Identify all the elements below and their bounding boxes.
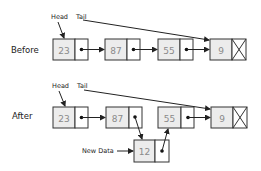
tail-label: Tail (76, 82, 88, 90)
list-node: 9 (210, 39, 246, 60)
head-pointer-arrow (58, 22, 64, 38)
tail-label: Tail (75, 13, 87, 21)
list-node: 9 (211, 107, 247, 128)
node-value: 23 (58, 114, 69, 124)
head-label: Head (51, 13, 68, 21)
before-section: Before Head Tail 23 87 55 (11, 13, 246, 60)
node-value: 55 (163, 46, 174, 56)
tail-pointer-arrow (84, 90, 210, 109)
before-label: Before (11, 45, 39, 55)
node-value: 9 (218, 46, 224, 56)
node-value: 87 (112, 114, 123, 124)
after-section: After Head Tail 23 87 55 (12, 82, 247, 162)
new-data-label: New Data (82, 147, 114, 155)
tail-pointer-arrow (83, 20, 209, 40)
head-label: Head (52, 82, 69, 90)
linked-list-diagram: Before Head Tail 23 87 55 (0, 0, 261, 171)
after-label: After (12, 111, 33, 121)
head-pointer-arrow (59, 91, 65, 106)
node-value: 12 (139, 147, 150, 157)
node-value: 55 (164, 114, 175, 124)
node-value: 23 (58, 46, 69, 56)
node-value: 9 (219, 114, 225, 124)
list-node: 87 (106, 107, 142, 128)
node-value: 87 (110, 46, 121, 56)
